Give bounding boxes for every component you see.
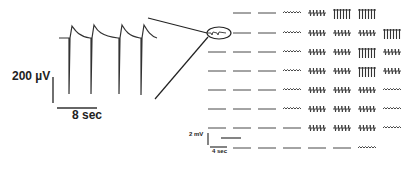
right-scale-bar: [208, 133, 241, 147]
electrode-trace: [283, 70, 301, 72]
electrode-trace: [383, 108, 401, 110]
electrode-trace: [333, 30, 351, 36]
electrode-trace: [383, 127, 401, 129]
electrode-trace: [358, 48, 376, 58]
electrode-trace: [333, 49, 351, 55]
expanded-trace: [59, 25, 157, 95]
electrode-trace: [358, 106, 376, 112]
electrode-trace: [383, 49, 401, 55]
electrode-trace: [358, 147, 376, 149]
electrode-trace: [308, 10, 326, 16]
electrode-trace: [308, 68, 326, 74]
figure-canvas: [0, 0, 417, 169]
electrode-trace: [308, 49, 326, 55]
electrode-trace: [308, 30, 326, 36]
electrode-trace: [383, 68, 401, 74]
electrode-trace: [283, 51, 301, 53]
electrode-trace: [308, 106, 326, 112]
electrode-trace: [208, 32, 226, 35]
electrode-trace: [283, 108, 301, 110]
grid-voltage-scale-label: 2 mV: [189, 131, 203, 137]
electrode-trace: [358, 9, 376, 19]
electrode-trace: [383, 89, 401, 91]
zoom-callout: [148, 18, 231, 99]
electrode-trace: [358, 87, 376, 93]
voltage-scale-label: 200 µV: [12, 69, 50, 83]
electrode-grid: [208, 9, 401, 148]
electrode-trace: [308, 87, 326, 93]
electrode-trace: [333, 106, 351, 112]
electrode-trace: [283, 12, 301, 14]
time-scale-label: 8 sec: [72, 108, 102, 122]
electrode-trace: [358, 125, 376, 131]
electrode-trace: [358, 67, 376, 77]
electrode-trace: [358, 30, 376, 36]
electrode-trace: [333, 87, 351, 93]
grid-time-scale-label: 4 sec: [212, 148, 227, 154]
electrode-trace: [383, 29, 401, 39]
electrode-trace: [333, 9, 351, 19]
electrode-trace: [283, 89, 301, 91]
electrode-trace: [333, 125, 351, 131]
electrode-trace: [283, 32, 301, 34]
electrode-trace: [333, 68, 351, 74]
electrode-trace: [308, 125, 326, 131]
